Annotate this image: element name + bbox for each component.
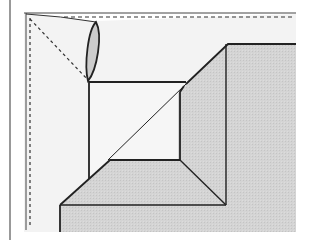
diagram-canvas <box>0 0 316 244</box>
origami-diagram <box>0 0 316 244</box>
